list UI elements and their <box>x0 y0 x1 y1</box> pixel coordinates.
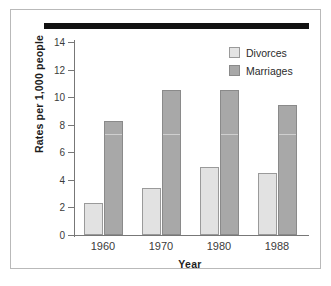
chart-figure: Rates per 1,000 people 02468101214 19601… <box>10 9 321 269</box>
bar-group <box>74 42 132 235</box>
legend-label: Marriages <box>246 65 293 77</box>
y-axis-tick-label: 0 <box>43 230 65 241</box>
bar-group <box>132 42 190 235</box>
legend-item-divorces[interactable]: Divorces <box>229 45 321 60</box>
legend-label: Divorces <box>246 47 287 59</box>
x-axis-tick-label: 1988 <box>250 240 304 252</box>
legend-item-marriages[interactable]: Marriages <box>229 63 321 78</box>
bar-marriages-1960[interactable] <box>104 121 123 235</box>
bar-divorces-1960[interactable] <box>84 203 103 235</box>
y-axis-tick-label: 4 <box>43 174 65 185</box>
y-axis-tick-label: 2 <box>43 202 65 213</box>
x-axis-label: Year <box>74 258 306 270</box>
bar-divorces-1988[interactable] <box>258 173 277 235</box>
legend-swatch-icon <box>229 47 240 58</box>
y-axis-tick-label: 14 <box>43 37 65 48</box>
x-axis-tick-label: 1960 <box>76 240 130 252</box>
y-axis-tick-label: 8 <box>43 119 65 130</box>
bar-marriages-1980[interactable] <box>220 90 239 235</box>
x-axis-tick-label: 1980 <box>192 240 246 252</box>
x-axis-tick-label: 1970 <box>134 240 188 252</box>
bar-divorces-1980[interactable] <box>200 167 219 235</box>
y-axis-tick-labels: 02468101214 <box>40 10 65 286</box>
bar-divorces-1970[interactable] <box>142 188 161 235</box>
x-axis-line <box>73 235 309 236</box>
legend-swatch-icon <box>229 65 240 76</box>
bar-marriages-1970[interactable] <box>162 90 181 235</box>
y-axis-tick <box>68 235 74 236</box>
top-rule-decoration <box>44 23 309 29</box>
y-axis-tick-label: 12 <box>43 64 65 75</box>
y-axis-tick-label: 10 <box>43 92 65 103</box>
bar-marriages-1988[interactable] <box>278 105 297 235</box>
chart-legend: DivorcesMarriages <box>229 45 321 81</box>
y-axis-tick-label: 6 <box>43 147 65 158</box>
